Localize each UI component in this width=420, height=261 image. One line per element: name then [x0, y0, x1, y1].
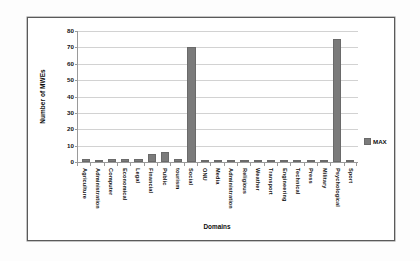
x-tick-mark [304, 162, 317, 166]
bar-slot [317, 31, 330, 162]
x-tick-label-12: Religious [241, 168, 247, 194]
x-tick-label-20: Sport [347, 168, 353, 183]
bar [148, 154, 156, 162]
x-tick-mark [250, 162, 263, 166]
x-tick-mark [117, 162, 130, 166]
x-label-slot: Administration [224, 167, 237, 223]
x-tick-label-16: Technical [294, 168, 300, 194]
bar-series-max [78, 31, 358, 162]
bar-slot [119, 31, 132, 162]
bar-slot [211, 31, 224, 162]
bar-slot [344, 31, 357, 162]
x-tick-label-3: Economical [121, 168, 127, 200]
y-tick-label-80: 80 [67, 28, 74, 34]
x-tick-mark [170, 162, 183, 166]
x-tick-label-13: Weather [254, 168, 260, 191]
x-tick-label-6: Public [161, 168, 167, 185]
x-label-slot: tourism [170, 167, 183, 223]
y-tick-label-0: 0 [71, 159, 74, 165]
y-tick-label-60: 60 [67, 61, 74, 67]
plot-wrapper: Number of MWEs 01020304050607080 Agricul… [28, 18, 394, 240]
x-tick-mark [130, 162, 143, 166]
bar-slot [79, 31, 92, 162]
x-label-slot: Legal [130, 167, 143, 223]
x-tick-label-19: Psychological [334, 168, 340, 207]
x-tick-mark [317, 162, 330, 166]
x-label-slot: Engineering [277, 167, 290, 223]
y-tick-label-10: 10 [67, 143, 74, 149]
x-label-slot: Computer [104, 167, 117, 223]
x-tick-mark [197, 162, 210, 166]
chart-legend: MAX [364, 138, 387, 145]
bar-slot [172, 31, 185, 162]
y-axis-title: Number of MWEs [36, 31, 48, 162]
x-tick-label-15: Engineering [281, 168, 287, 201]
bar-slot [251, 31, 264, 162]
bar-slot [105, 31, 118, 162]
y-tick-label-70: 70 [67, 44, 74, 50]
bar-slot [238, 31, 251, 162]
x-tick-label-0: Agriculture [81, 168, 87, 199]
x-tick-label-14: Transport [267, 168, 273, 195]
x-label-slot: Military [317, 167, 330, 223]
figure-root: Number of MWEs 01020304050607080 Agricul… [0, 0, 420, 261]
bar [187, 47, 195, 162]
x-tick-mark [157, 162, 170, 166]
x-tick-label-8: Social [187, 168, 193, 185]
x-label-slot: Agriculture [77, 167, 90, 223]
legend-label-max: MAX [373, 138, 387, 145]
bar-slot [304, 31, 317, 162]
y-tick-label-20: 20 [67, 126, 74, 132]
bar-slot [264, 31, 277, 162]
x-tick-mark [90, 162, 103, 166]
x-tick-label-1: Administration [94, 168, 100, 209]
x-tick-label-7: tourism [174, 168, 180, 189]
x-tick-label-18: Military [321, 168, 327, 188]
bar [161, 152, 169, 162]
x-axis-tick-marks [77, 162, 357, 166]
bar-slot [225, 31, 238, 162]
y-tick-label-30: 30 [67, 110, 74, 116]
x-tick-label-4: Legal [134, 168, 140, 183]
bar-slot [291, 31, 304, 162]
x-tick-mark [264, 162, 277, 166]
x-tick-mark [237, 162, 250, 166]
x-axis-title: Domains [77, 223, 357, 230]
bar [333, 39, 341, 162]
x-label-slot: Technical [290, 167, 303, 223]
bar-slot [185, 31, 198, 162]
x-tick-label-17: Press [307, 168, 313, 184]
x-tick-mark [184, 162, 197, 166]
x-label-slot: Financial [144, 167, 157, 223]
legend-swatch-icon [364, 138, 371, 145]
bar-slot [145, 31, 158, 162]
y-tick-label-40: 40 [67, 93, 74, 99]
bar-slot [92, 31, 105, 162]
bar-slot [198, 31, 211, 162]
x-tick-mark [224, 162, 237, 166]
x-tick-mark [277, 162, 290, 166]
x-label-slot: Media [210, 167, 223, 223]
bar-slot [132, 31, 145, 162]
x-label-slot: Social [184, 167, 197, 223]
x-tick-mark [77, 162, 90, 166]
chart-frame: Number of MWEs 01020304050607080 Agricul… [27, 17, 395, 241]
x-tick-mark [344, 162, 357, 166]
x-label-slot: Administration [90, 167, 103, 223]
x-label-slot: ONU [197, 167, 210, 223]
x-label-slot: Weather [250, 167, 263, 223]
bar-slot [278, 31, 291, 162]
x-tick-label-10: Media [214, 168, 220, 184]
x-tick-mark [144, 162, 157, 166]
x-label-slot: Public [157, 167, 170, 223]
y-tick-label-50: 50 [67, 77, 74, 83]
x-tick-label-9: ONU [201, 168, 207, 181]
x-label-slot: Transport [264, 167, 277, 223]
x-axis-tick-labels: AgricultureAdministrationComputerEconomi… [77, 167, 357, 223]
x-label-slot: Sport [344, 167, 357, 223]
plot-area: 01020304050607080 [77, 31, 358, 163]
x-label-slot: Press [304, 167, 317, 223]
x-tick-mark [104, 162, 117, 166]
x-tick-mark [210, 162, 223, 166]
x-label-slot: Religious [237, 167, 250, 223]
